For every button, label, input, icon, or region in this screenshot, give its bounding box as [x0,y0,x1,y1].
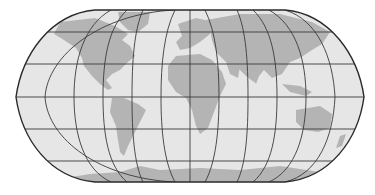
world-map [0,0,375,195]
